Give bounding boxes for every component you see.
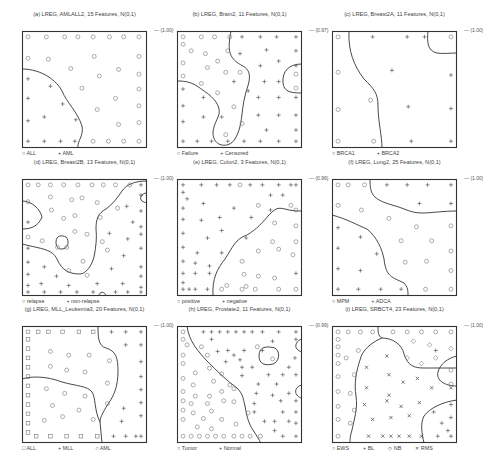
legend-item: + AML bbox=[58, 150, 73, 156]
legend-item: ○ Tumor bbox=[177, 445, 197, 451]
panel-f: (f) LREG, Lung2, 25 Features, N(0,1)— (1… bbox=[310, 159, 465, 309]
panel-title: (g) LREG, MLL_Leukemia3, 20 Features, N(… bbox=[22, 306, 147, 312]
panel-legend: ○ BRCA1+ BRCA2 bbox=[332, 150, 399, 156]
panel-title: (h) LREG, Prostate2, 11 Features, N(0,1) bbox=[177, 306, 302, 312]
panel-legend: □ ALL+ MLL○ AML bbox=[22, 445, 111, 451]
plot-area bbox=[332, 326, 457, 443]
panel-legend: ○ Failure+ Censored bbox=[177, 150, 248, 156]
plot-frame bbox=[23, 327, 147, 443]
panel-e: (e) LREG, Colon2, 3 Features, N(0,1)— (0… bbox=[155, 159, 310, 309]
panel-a: (a) LREG, AMLALL2, 15 Features, N(0,1)— … bbox=[0, 11, 155, 161]
plot-frame bbox=[333, 32, 457, 148]
panel-title: (f) LREG, Lung2, 25 Features, N(0,1) bbox=[332, 159, 457, 165]
plot-area bbox=[177, 31, 302, 148]
plot-area bbox=[22, 31, 147, 148]
legend-item: ○ relapse bbox=[22, 298, 44, 304]
plot-area bbox=[22, 179, 147, 296]
panel-title: (e) LREG, Colon2, 3 Features, N(0,1) bbox=[177, 159, 302, 165]
panel-score: — (1.00) bbox=[464, 175, 483, 181]
legend-item: ○ AML bbox=[95, 445, 111, 451]
panel-legend: ○ ALL+ AML bbox=[22, 150, 74, 156]
legend-item: + non-relapse bbox=[66, 298, 99, 304]
plot-area bbox=[22, 326, 147, 443]
legend-item: + ADCA bbox=[371, 298, 390, 304]
plot-frame bbox=[23, 32, 147, 148]
panel-b: (b) LREG, Brain2, 11 Features, N(0,1)— (… bbox=[155, 11, 310, 161]
legend-item: + Normal bbox=[219, 445, 241, 451]
legend-item: + negative bbox=[222, 298, 247, 304]
legend-item: ◇ NB bbox=[388, 445, 401, 451]
legend-item: ○ ALL bbox=[22, 150, 36, 156]
panel-legend: ○ Tumor+ Normal bbox=[177, 445, 241, 451]
legend-item: + Censored bbox=[220, 150, 248, 156]
panel-legend: ○ MPM+ ADCA bbox=[332, 298, 391, 304]
legend-item: + BRCA2 bbox=[377, 150, 400, 156]
legend-item: ○ positive bbox=[177, 298, 200, 304]
plot-area bbox=[332, 31, 457, 148]
plot-frame bbox=[178, 32, 302, 148]
panel-score: — (1.00) bbox=[464, 27, 483, 33]
panel-i: (i) LREG, SRBCT4, 23 Features, N(0,1)— (… bbox=[310, 306, 465, 456]
panel-title: (c) LREG, Breast2A, 11 Features, N(0,1) bbox=[332, 11, 457, 17]
plot-area bbox=[177, 326, 302, 443]
panel-legend: ○ EWS+ BL◇ NB✕ RMS bbox=[332, 445, 433, 451]
legend-item: + MLL bbox=[58, 445, 73, 451]
legend-item: □ ALL bbox=[22, 445, 36, 451]
panel-legend: ○ positive+ negative bbox=[177, 298, 247, 304]
legend-item: ○ EWS bbox=[332, 445, 349, 451]
panel-title: (a) LREG, AMLALL2, 15 Features, N(0,1) bbox=[22, 11, 147, 17]
panel-legend: ○ relapse+ non-relapse bbox=[22, 298, 100, 304]
legend-item: ✕ RMS bbox=[415, 445, 432, 451]
panel-c: (c) LREG, Breast2A, 11 Features, N(0,1)—… bbox=[310, 11, 465, 161]
plot-area bbox=[177, 179, 302, 296]
plot-area bbox=[332, 179, 457, 296]
legend-item: ○ Failure bbox=[177, 150, 198, 156]
panel-h: (h) LREG, Prostate2, 11 Features, N(0,1)… bbox=[155, 306, 310, 456]
panel-title: (d) LREG, Breast2B, 13 Features, N(0,1) bbox=[22, 159, 147, 165]
legend-item: + BL bbox=[363, 445, 374, 451]
panel-d: (d) LREG, Breast2B, 13 Features, N(0,1)—… bbox=[0, 159, 155, 309]
panel-g: (g) LREG, MLL_Leukemia3, 20 Features, N(… bbox=[0, 306, 155, 456]
panel-title: (b) LREG, Brain2, 11 Features, N(0,1) bbox=[177, 11, 302, 17]
panel-title: (i) LREG, SRBCT4, 23 Features, N(0,1) bbox=[332, 306, 457, 312]
panel-score: — (1.00) bbox=[464, 322, 483, 328]
legend-item: ○ MPM bbox=[332, 298, 349, 304]
legend-item: ○ BRCA1 bbox=[332, 150, 355, 156]
